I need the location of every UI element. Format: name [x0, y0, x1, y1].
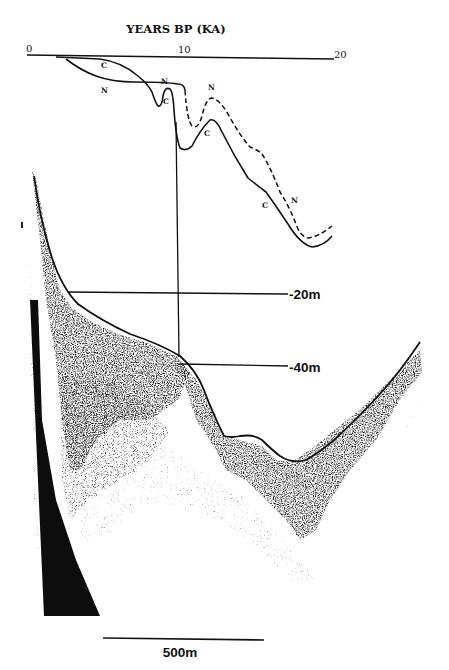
curve-label-n: N	[291, 196, 298, 205]
sea-level-chart: YEARS BP (KA) 0 10 20 C N N C N C C N	[26, 22, 347, 247]
seismic-profile	[21, 170, 424, 616]
time-reference-line	[176, 122, 179, 357]
scale-bar-line	[103, 638, 264, 640]
curve-label-n: N	[208, 83, 215, 92]
curve-label-c: C	[204, 129, 210, 138]
seismic-profile-figure: YEARS BP (KA) 0 10 20 C N N C N C C N	[0, 0, 449, 670]
curve-label-n: N	[161, 77, 168, 86]
depth-label-40m: -40m	[289, 360, 321, 375]
scale-bar: 500m	[103, 638, 264, 660]
tick-label-20: 20	[334, 49, 347, 60]
tick-label-10: 10	[178, 44, 191, 55]
depth-label-20m: -20m	[289, 287, 321, 302]
curve-c	[56, 57, 332, 247]
scale-bar-label: 500m	[163, 645, 198, 660]
axis-title: YEARS BP (KA)	[125, 22, 225, 36]
curve-label-c: C	[101, 61, 107, 70]
curve-label-c: C	[163, 97, 169, 106]
curve-label-c: C	[262, 201, 268, 210]
tick-label-0: 0	[26, 43, 32, 54]
depth-line-20m	[68, 292, 288, 294]
profile-speck	[21, 222, 23, 228]
curve-label-n: N	[101, 86, 108, 95]
curve-n-dashed	[185, 90, 332, 238]
depth-line-40m	[180, 364, 288, 366]
